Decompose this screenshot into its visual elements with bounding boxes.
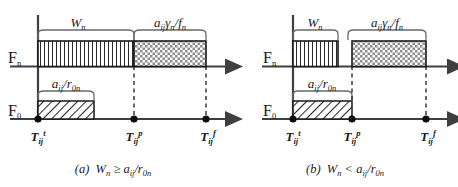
panel-a-work-bar [38,41,134,67]
panel-b-transfer-bar [352,41,426,67]
panel-b-work-bracket-label: Wn [307,15,322,32]
panel-b-load-bracket [293,91,352,100]
panel-b-transfer-bracket-label: aijγn/fn [371,15,403,32]
panel-a-fn-axis-label: Fn [8,49,22,68]
panel-a-tick-label-process: Tijp [126,128,143,146]
panel-b-f0-axis-label: F0 [263,102,276,121]
figure-root: Fn F0 Wn aijγn/fn aij/r0n Tijt Tijp Tijf… [0,0,458,187]
panel-b-tick-dot-finish [422,115,429,122]
panel-a-work-bracket [38,30,134,40]
panel-a-work-bracket-label: Wn [70,15,85,32]
panel-b-tick-dot-start [289,115,296,122]
panel-a-tick-dot-start [34,115,41,122]
panel-b-tick-label-process: Tijp [344,128,361,146]
panel-a-load-bar [38,101,94,119]
panel-b-tick-label-finish: Tijf [420,128,437,146]
panel-a-transfer-bar [134,41,206,67]
panel-b-load-bracket-label: aij/r0n [308,76,336,93]
panel-b-tick-label-start: Tijt [285,128,301,146]
panel-b: Fn F0 Wn aijγn/fn aij/r0n Tijt Tijp Tijf… [262,15,448,178]
panel-a-tick-dot-finish [202,115,209,122]
panel-b-tick-dot-process [348,115,355,122]
panel-a-tick-label-finish: Tijf [200,128,217,146]
panel-b-work-bar [293,41,338,67]
panel-b-fn-axis-label: Fn [263,49,277,68]
panel-b-work-bracket [293,30,338,40]
panel-a-f0-axis-label: F0 [8,102,21,121]
panel-b-caption: (b) Wn < aij/r0n [306,162,384,178]
panel-a-transfer-bracket-label: aijγn/fn [154,15,186,32]
panel-a: Fn F0 Wn aijγn/fn aij/r0n Tijt Tijp Tijf… [8,15,226,178]
panel-a-caption: (a) Wn ≥ aij/r0n [75,162,151,178]
panel-a-load-bracket [38,91,94,100]
panel-b-load-bar [293,101,352,119]
panel-a-tick-label-start: Tijt [30,128,46,146]
panel-a-tick-dot-process [130,115,137,122]
panel-a-load-bracket-label: aij/r0n [52,76,80,93]
diagram-canvas: Fn F0 Wn aijγn/fn aij/r0n Tijt Tijp Tijf… [0,0,458,187]
